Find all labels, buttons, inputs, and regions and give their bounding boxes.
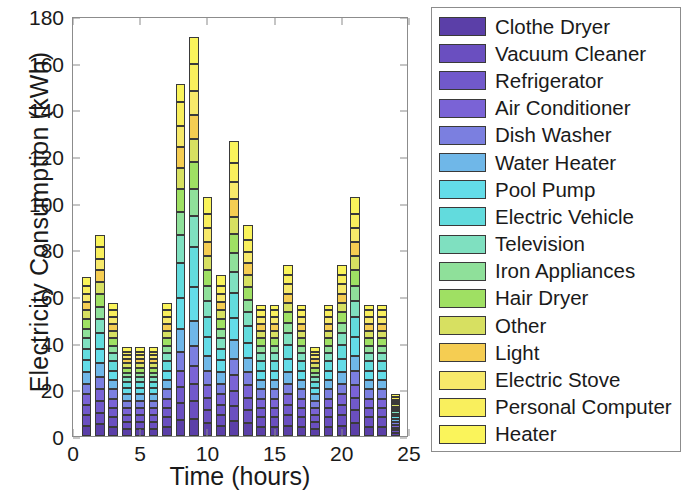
- y-tick-mark: [400, 251, 407, 252]
- bar-segment: [256, 305, 266, 310]
- bar-segment: [337, 312, 347, 323]
- bar-segment: [149, 382, 159, 388]
- stacked-bar: [108, 303, 118, 436]
- bar-segment: [310, 408, 320, 415]
- bar-segment: [82, 277, 92, 285]
- bar-segment: [216, 286, 226, 294]
- bar-segment: [108, 346, 118, 353]
- bar-segment: [82, 329, 92, 338]
- bar-segment: [283, 394, 293, 405]
- x-tick-mark: [341, 18, 342, 25]
- bar-segment: [135, 394, 145, 401]
- bar-segment: [364, 371, 374, 380]
- legend-label: Water Heater: [495, 151, 616, 175]
- bar-segment: [229, 234, 239, 253]
- stacked-bar: [324, 305, 334, 436]
- bar-segment: [364, 380, 374, 389]
- bar-segment: [283, 284, 293, 293]
- bar-segment: [364, 399, 374, 408]
- bar-segment: [216, 372, 226, 384]
- bar-segment: [337, 303, 347, 312]
- bar-segment: [95, 424, 105, 436]
- bar-segment: [283, 415, 293, 426]
- bar-segment: [256, 361, 266, 370]
- bar-segment: [122, 382, 132, 388]
- bar-segment: [350, 410, 360, 423]
- y-tick-mark: [73, 204, 80, 205]
- stacked-bar: [203, 197, 213, 436]
- bar-segment: [270, 310, 280, 317]
- legend-swatch: [439, 153, 486, 172]
- bar-segment: [189, 247, 199, 287]
- legend-swatch: [439, 235, 486, 254]
- bar-segment: [297, 399, 307, 408]
- bar-segment: [364, 361, 374, 370]
- bar-segment: [377, 399, 387, 408]
- bar-segment: [256, 417, 266, 426]
- bar-segment: [82, 294, 92, 302]
- bar-segment: [108, 331, 118, 338]
- bar-segment: [203, 270, 213, 285]
- bar-segment: [162, 361, 172, 370]
- x-tick-mark: [274, 18, 275, 25]
- bar-segment: [229, 217, 239, 235]
- bar-segment: [324, 324, 334, 331]
- x-tick-mark: [140, 429, 141, 436]
- bar-segment: [364, 417, 374, 426]
- bar-segment: [189, 139, 199, 162]
- legend-label: Light: [495, 341, 539, 365]
- bar-segment: [243, 240, 253, 252]
- bar-segment: [364, 305, 374, 310]
- bar-segment: [337, 405, 347, 416]
- bar-segment: [337, 294, 347, 303]
- bar-segment: [297, 338, 307, 345]
- bar-segment: [324, 331, 334, 338]
- bar-segment: [135, 355, 145, 359]
- bar-segment: [95, 247, 105, 259]
- legend-label: Heater: [495, 422, 557, 446]
- bar-segment: [189, 321, 199, 347]
- bar-segment: [350, 228, 360, 242]
- bar-segment: [377, 346, 387, 353]
- y-tick-mark: [73, 111, 80, 112]
- bar-segment: [135, 368, 145, 373]
- bar-segment: [283, 345, 293, 359]
- bar-segment: [270, 380, 280, 389]
- bar-segment: [216, 338, 226, 349]
- bar-segment: [203, 286, 213, 301]
- bar-segment: [122, 359, 132, 364]
- legend-item: Personal Computer: [439, 394, 680, 421]
- bar-segment: [297, 389, 307, 398]
- bar-segment: [256, 310, 266, 317]
- bar-segment: [337, 345, 347, 359]
- bar-segment: [350, 286, 360, 301]
- bar-segment: [122, 401, 132, 408]
- bar-segment: [377, 305, 387, 310]
- legend-swatch: [439, 289, 486, 308]
- bar-segment: [162, 303, 172, 310]
- y-tick-label: 40: [41, 333, 73, 357]
- bar-segment: [297, 380, 307, 389]
- bar-segment: [391, 411, 401, 413]
- bar-segment: [243, 252, 253, 264]
- bar-segment: [176, 329, 186, 352]
- bar-segment: [297, 324, 307, 331]
- y-tick-mark: [400, 158, 407, 159]
- bar-segment: [95, 413, 105, 425]
- bar-segment: [203, 197, 213, 215]
- legend-swatch: [439, 262, 486, 281]
- stacked-bar: [337, 265, 347, 437]
- bar-segment: [324, 389, 334, 398]
- bar-segment: [337, 284, 347, 293]
- bar-segment: [203, 228, 213, 242]
- bar-segment: [310, 415, 320, 422]
- bar-segment: [229, 406, 239, 421]
- bar-segment: [149, 373, 159, 378]
- bar-segment: [324, 317, 334, 324]
- bar-segment: [189, 216, 199, 248]
- stacked-bar: [135, 347, 145, 436]
- legend-item: Electric Stove: [439, 366, 680, 393]
- bar-segment: [350, 398, 360, 411]
- legend-label: Vacuum Cleaner: [495, 42, 646, 66]
- bar-segment: [297, 346, 307, 353]
